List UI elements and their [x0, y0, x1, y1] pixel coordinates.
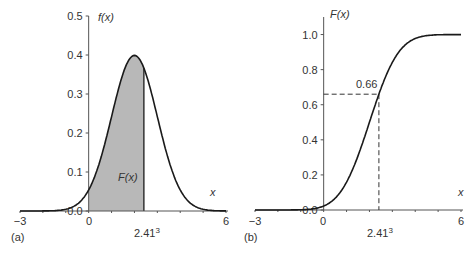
- x-axis-title: x: [457, 186, 464, 198]
- x-tick-min: −3: [249, 215, 262, 227]
- figure: 0.00.10.20.30.40.5 f(x) F(x) x −3 0 6 2.…: [0, 0, 472, 256]
- svg-text:0.4: 0.4: [302, 134, 317, 146]
- x-marker-label: 2.413: [367, 226, 393, 239]
- x-tick-min: −3: [14, 215, 27, 227]
- svg-text:0.6: 0.6: [302, 99, 317, 111]
- panel-label-a: (a): [11, 231, 24, 243]
- x-tick-zero: 0: [86, 215, 92, 227]
- panel-a-pdf: 0.00.10.20.30.40.5 f(x) F(x) x −3 0 6 2.…: [11, 10, 229, 243]
- x-tick-max: 6: [458, 215, 464, 227]
- annotation-label: 0.66: [356, 78, 377, 90]
- x-axis-title: x: [209, 186, 216, 198]
- x-marker-label: 2.413: [134, 226, 160, 239]
- svg-text:1.0: 1.0: [302, 29, 317, 41]
- svg-text:0.2: 0.2: [302, 169, 317, 181]
- y-axis-title: F(x): [330, 8, 350, 20]
- x-tick-max: 6: [223, 215, 229, 227]
- svg-text:0.1: 0.1: [67, 166, 82, 178]
- svg-text:0.3: 0.3: [67, 88, 82, 100]
- svg-text:0.5: 0.5: [67, 10, 82, 22]
- svg-text:0.2: 0.2: [67, 127, 82, 139]
- y-ticks: 0.00.10.20.30.40.5: [67, 10, 88, 217]
- svg-text:0.0: 0.0: [67, 205, 82, 217]
- shaded-area-label: F(x): [118, 171, 138, 183]
- svg-text:0.4: 0.4: [67, 49, 82, 61]
- svg-text:0.8: 0.8: [302, 64, 317, 76]
- x-tick-zero: 0: [320, 215, 326, 227]
- shaded-area-F: [89, 55, 144, 211]
- cdf-curve: [255, 35, 461, 210]
- y-ticks: 0.00.20.40.60.81.0: [302, 29, 323, 216]
- panel-b-cdf: 0.00.20.40.60.81.0 F(x) 0.66 x −3 0 6 2.…: [244, 8, 464, 243]
- panel-label-b: (b): [244, 231, 257, 243]
- y-axis-title: f(x): [98, 11, 114, 23]
